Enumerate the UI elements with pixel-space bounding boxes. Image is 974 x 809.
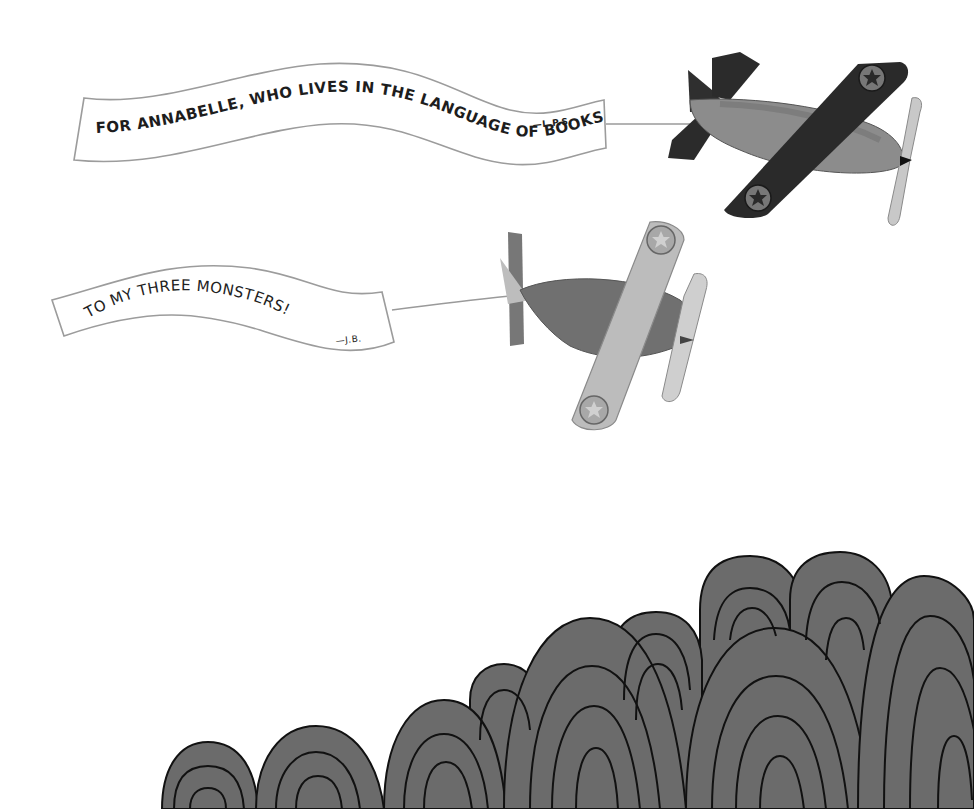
banner-2: TO MY THREE MONSTERS! —J.B. (52, 266, 510, 351)
hills (162, 552, 974, 809)
tow-line-2 (392, 296, 510, 310)
hill (256, 726, 384, 809)
dedication-illustration: FOR ANNABELLE, WHO LIVES IN THE LANGUAGE… (0, 0, 974, 809)
plane-light (500, 222, 707, 430)
plane-dark-tail-upper (712, 52, 760, 100)
plane-dark (668, 52, 922, 225)
banner-1: FOR ANNABELLE, WHO LIVES IN THE LANGUAGE… (0, 0, 690, 165)
